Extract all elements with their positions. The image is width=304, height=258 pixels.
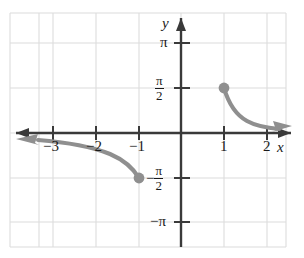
curve-left-branch <box>16 134 144 183</box>
fraction-minus-sign: − <box>146 171 154 186</box>
fraction-numerator: π <box>154 164 163 179</box>
x-tick-label-2: 2 <box>263 139 271 154</box>
y-axis-label: y <box>162 16 169 31</box>
y-tick-label-neg-pi: −π <box>150 214 166 229</box>
x-tick-label-neg3: −3 <box>43 139 59 154</box>
x-tick-label-neg2: −2 <box>86 139 102 154</box>
x-tick-label-neg1: −1 <box>129 139 145 154</box>
fraction-numerator: π <box>155 74 164 89</box>
x-axis-label: x <box>277 140 284 155</box>
x-axis <box>16 128 291 138</box>
fraction-denominator: 2 <box>155 89 164 103</box>
fraction-denominator: 2 <box>154 179 163 193</box>
curve-right-branch <box>219 83 292 132</box>
y-tick-label-pi-over-2: π 2 <box>155 74 164 103</box>
curve-left-endpoint-dot <box>134 173 145 184</box>
grid-lines <box>10 13 286 247</box>
y-tick-label-neg-pi-over-2: − π 2 <box>146 164 163 193</box>
y-tick-label-pi: π <box>160 35 168 50</box>
y-axis-arrow-up <box>176 18 186 31</box>
curve-right-endpoint-dot <box>219 83 230 94</box>
x-tick-label-1: 1 <box>220 139 228 154</box>
graph-figure: −3 −2 −1 1 2 x y π π 2 − π 2 −π <box>0 0 304 258</box>
